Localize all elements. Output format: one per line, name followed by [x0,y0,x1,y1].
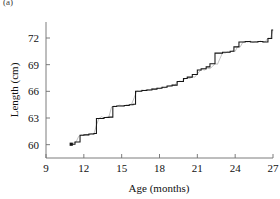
x-tick-label: 18 [154,162,166,174]
x-tick-label: 21 [192,162,203,174]
x-tick-label: 9 [43,162,49,174]
series-start-marker [70,143,73,146]
y-tick-label: 66 [28,85,40,97]
x-tick-label: 15 [116,162,128,174]
y-tick-label: 69 [28,59,40,71]
x-tick-group: 9121518212427 [43,154,279,174]
panel-label: (a) [3,0,13,7]
y-tick-group: 6063666972 [28,32,50,151]
x-axis-title: Age (months) [129,182,190,195]
raw-measurements-line [71,30,273,144]
y-tick-label: 72 [28,32,39,44]
saltatory-step-line [71,30,273,144]
growth-chart-figure: (a) 6063666972 9121518212427 Age (months… [0,0,280,199]
y-tick-label: 60 [28,139,40,151]
x-tick-label: 27 [268,162,280,174]
chart-series-layer [70,30,273,146]
chart-plot-area: 6063666972 9121518212427 Age (months) Le… [0,0,280,199]
x-tick-label: 12 [78,162,89,174]
y-tick-label: 63 [28,112,40,124]
y-axis-title: Length (cm) [8,62,21,117]
x-tick-label: 24 [230,162,242,174]
